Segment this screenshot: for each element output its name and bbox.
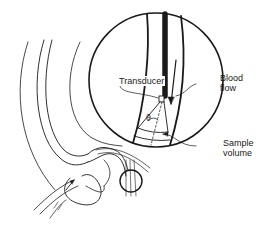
vessel-branch-1 — [34, 180, 74, 210]
probe-in-small-circle — [126, 160, 136, 196]
blood-flow-leader — [176, 84, 196, 96]
beam-center-line — [151, 102, 162, 145]
aorta-wall-right — [170, 16, 183, 145]
body-outline-outer — [20, 42, 55, 190]
theta-angle-label: θ — [146, 114, 151, 124]
beam-arc-2 — [134, 136, 170, 141]
beam-arc-1 — [138, 128, 168, 133]
sample-volume-label: Sample volume — [223, 138, 254, 158]
probe-tube-lower — [88, 154, 126, 176]
trachea-line-2 — [98, 153, 148, 172]
stomach-outline — [104, 160, 110, 186]
esophagus-wall-left — [37, 40, 88, 165]
vessel-branch-2 — [40, 186, 78, 214]
transducer-icon — [159, 96, 164, 102]
doppler-diagram: Transducer Blood flow Sample volume θ — [0, 0, 269, 235]
throat-curve — [70, 42, 122, 146]
blood-flow-label: Blood flow — [220, 73, 243, 93]
vessel-stub — [54, 202, 62, 210]
transducer-label: Transducer — [118, 76, 165, 86]
diagram-drawing — [0, 0, 269, 235]
transducer-leader — [120, 86, 158, 98]
probe-tube-upper — [88, 147, 128, 170]
esophagus-wall-right — [46, 40, 88, 156]
